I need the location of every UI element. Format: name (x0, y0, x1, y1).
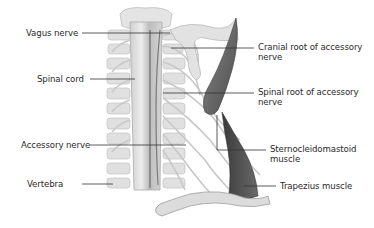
label-vertebra: Vertebra (27, 179, 63, 189)
label-spinal-root: Spinal root of accessory nerve (258, 87, 359, 107)
label-cranial-root: Cranial root of accessory nerve (258, 42, 362, 62)
label-accessory-nerve: Accessory nerve (21, 140, 90, 150)
label-spinal-cord: Spinal cord (37, 74, 84, 84)
label-sternocleidomastoid: Sternocleidomastoid muscle (270, 144, 356, 164)
label-trapezius: Trapezius muscle (280, 181, 352, 191)
label-vagus-nerve: Vagus nerve (26, 28, 78, 38)
